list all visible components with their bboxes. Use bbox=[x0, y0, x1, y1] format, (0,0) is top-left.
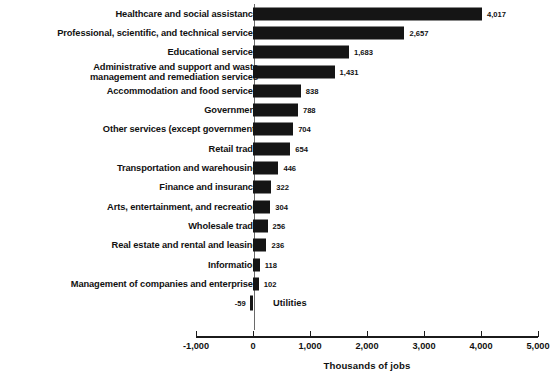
bar bbox=[253, 181, 271, 194]
x-axis-tick bbox=[481, 331, 482, 337]
bar-row: Administrative and support and waste man… bbox=[0, 62, 548, 81]
bar-row: Professional, scientific, and technical … bbox=[0, 23, 548, 42]
bar bbox=[253, 162, 278, 175]
x-axis-tick bbox=[310, 331, 311, 337]
bar-row: Retail trade654 bbox=[0, 139, 548, 158]
x-axis-tick bbox=[424, 331, 425, 337]
bar-plot-area: 1,431 bbox=[196, 62, 538, 81]
bar-plot-area: 446 bbox=[196, 158, 538, 177]
bar-plot-area: 102 bbox=[196, 274, 538, 293]
x-axis-tick-label: 5,000 bbox=[527, 341, 550, 351]
bar-value-label: 1,431 bbox=[340, 67, 359, 76]
bar-value-label: 102 bbox=[264, 279, 277, 288]
x-axis-tick bbox=[538, 331, 539, 337]
bar-plot-area: 118 bbox=[196, 255, 538, 274]
x-axis-tick-label: 3,000 bbox=[413, 341, 436, 351]
bar-row: Wholesale trade256 bbox=[0, 216, 548, 235]
bar-value-label: 4,017 bbox=[487, 9, 506, 18]
bar bbox=[253, 142, 290, 155]
bar-row: Information118 bbox=[0, 255, 548, 274]
bar-value-label: 838 bbox=[306, 86, 319, 95]
bar bbox=[253, 277, 259, 290]
bar-row: -59Utilities bbox=[0, 293, 548, 312]
bar-plot-area: 788 bbox=[196, 100, 538, 119]
bar-plot-area: 4,017 bbox=[196, 4, 538, 23]
bar-row: Management of companies and enterprises1… bbox=[0, 274, 548, 293]
bar-value-label: 304 bbox=[275, 202, 288, 211]
bar-rows: Healthcare and social assistance4,017Pro… bbox=[0, 4, 548, 313]
bar-plot-area: 704 bbox=[196, 120, 538, 139]
bar bbox=[253, 46, 349, 59]
bar-value-label: -59 bbox=[222, 299, 246, 308]
bar-plot-area: -59Utilities bbox=[196, 293, 538, 312]
bar-row: Healthcare and social assistance4,017 bbox=[0, 4, 548, 23]
bar-value-label: 654 bbox=[295, 144, 308, 153]
bar bbox=[253, 239, 266, 252]
bar-plot-area: 304 bbox=[196, 197, 538, 216]
bar-value-label: 788 bbox=[303, 106, 316, 115]
x-axis-tick bbox=[196, 331, 197, 337]
bar-value-label: 118 bbox=[265, 260, 277, 269]
bar-plot-area: 256 bbox=[196, 216, 538, 235]
bar bbox=[253, 200, 270, 213]
x-axis-tick-label: -1,000 bbox=[183, 341, 209, 351]
bar-plot-area: 654 bbox=[196, 139, 538, 158]
bar-plot-area: 236 bbox=[196, 236, 538, 255]
bar-plot-area: 322 bbox=[196, 178, 538, 197]
x-axis-tick-label: 2,000 bbox=[356, 341, 379, 351]
bar bbox=[253, 219, 268, 232]
category-label: Utilities bbox=[273, 298, 307, 308]
bar-value-label: 322 bbox=[276, 183, 289, 192]
bar-value-label: 236 bbox=[271, 241, 284, 250]
bar-value-label: 256 bbox=[273, 221, 286, 230]
bar-row: Government788 bbox=[0, 100, 548, 119]
bar-plot-area: 838 bbox=[196, 81, 538, 100]
bar-row: Arts, entertainment, and recreation304 bbox=[0, 197, 548, 216]
bar-row: Transportation and warehousing446 bbox=[0, 158, 548, 177]
bar bbox=[250, 296, 253, 311]
x-axis-tick-label: 1,000 bbox=[299, 341, 322, 351]
bar-value-label: 446 bbox=[283, 164, 296, 173]
bar bbox=[253, 84, 301, 97]
bar bbox=[253, 26, 404, 39]
bar-row: Finance and insurance322 bbox=[0, 178, 548, 197]
x-axis-tick-label: 4,000 bbox=[470, 341, 493, 351]
x-axis-tick-label: 0 bbox=[250, 341, 255, 351]
bar-value-label: 2,657 bbox=[409, 28, 428, 37]
bar-row: Educational services1,683 bbox=[0, 43, 548, 62]
bar-row: Real estate and rental and leasing236 bbox=[0, 236, 548, 255]
x-axis-tick bbox=[253, 331, 254, 337]
bar-value-label: 704 bbox=[298, 125, 311, 134]
x-axis-title: Thousands of jobs bbox=[196, 360, 538, 371]
bar-plot-area: 2,657 bbox=[196, 23, 538, 42]
bar-row: Accommodation and food services838 bbox=[0, 81, 548, 100]
bar bbox=[253, 65, 335, 78]
bar-plot-area: 1,683 bbox=[196, 43, 538, 62]
bar bbox=[253, 7, 482, 20]
x-axis-tick bbox=[367, 331, 368, 337]
bar-row: Other services (except government)704 bbox=[0, 120, 548, 139]
bar bbox=[253, 258, 260, 271]
bar-value-label: 1,683 bbox=[354, 48, 373, 57]
bar bbox=[253, 123, 293, 136]
bar bbox=[253, 104, 298, 117]
